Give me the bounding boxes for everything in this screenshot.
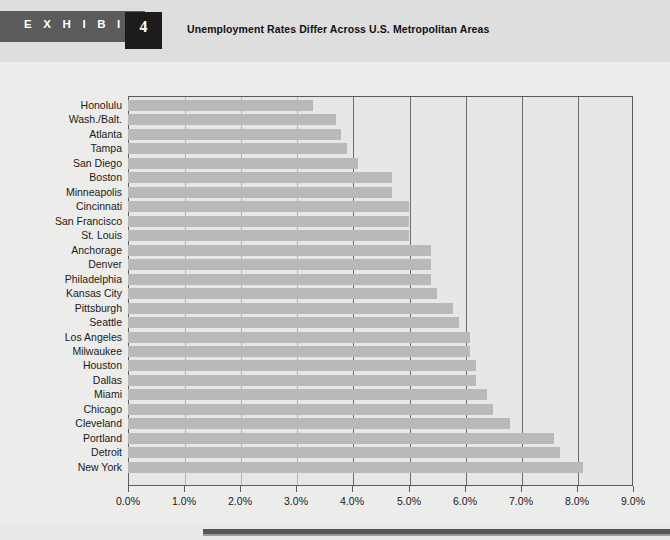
bar-new-york <box>128 462 583 473</box>
bar-miami <box>128 389 487 400</box>
footer-rule-shadow <box>203 534 670 536</box>
xtick-label-3.0pct: 3.0% <box>266 495 326 507</box>
xtick-mark-9 <box>633 486 634 492</box>
category-label-anchorage: Anchorage <box>0 244 122 256</box>
category-label-philadelphia: Philadelphia <box>0 273 122 285</box>
category-label-los-angeles: Los Angeles <box>0 331 122 343</box>
bar-minneapolis <box>128 187 392 198</box>
category-label-seattle: Seattle <box>0 316 122 328</box>
xtick-mark-8 <box>577 486 578 492</box>
category-label-denver: Denver <box>0 258 122 270</box>
bar-chicago <box>128 404 493 415</box>
category-label-wash-balt: Wash./Balt. <box>0 113 122 125</box>
category-label-chicago: Chicago <box>0 403 122 415</box>
category-label-milwaukee: Milwaukee <box>0 345 122 357</box>
bar-st-louis <box>128 230 409 241</box>
xtick-mark-2 <box>240 486 241 492</box>
xtick-mark-4 <box>352 486 353 492</box>
bar-cincinnati <box>128 201 409 212</box>
bar-detroit <box>128 447 560 458</box>
category-label-st-louis: St. Louis <box>0 229 122 241</box>
exhibit-number: 4 <box>125 18 162 36</box>
bar-pittsburgh <box>128 303 453 314</box>
value-axis-ticks: 0.0%1.0%2.0%3.0%4.0%5.0%6.0%7.0%8.0%9.0% <box>0 486 670 520</box>
category-label-san-diego: San Diego <box>0 157 122 169</box>
xtick-label-9.0pct: 9.0% <box>603 495 663 507</box>
xtick-mark-7 <box>521 486 522 492</box>
bar-denver <box>128 259 431 270</box>
category-label-boston: Boston <box>0 171 122 183</box>
bar-honolulu <box>128 100 313 111</box>
bar-anchorage <box>128 245 431 256</box>
category-label-cleveland: Cleveland <box>0 417 122 429</box>
category-label-miami: Miami <box>0 388 122 400</box>
xtick-label-8.0pct: 8.0% <box>547 495 607 507</box>
category-label-san-francisco: San Francisco <box>0 215 122 227</box>
category-label-detroit: Detroit <box>0 446 122 458</box>
bar-houston <box>128 360 476 371</box>
bar-san-diego <box>128 158 358 169</box>
category-label-cincinnati: Cincinnati <box>0 200 122 212</box>
xtick-mark-6 <box>465 486 466 492</box>
category-label-honolulu: Honolulu <box>0 99 122 111</box>
xtick-label-6.0pct: 6.0% <box>435 495 495 507</box>
category-label-new-york: New York <box>0 461 122 473</box>
bar-kansas-city <box>128 288 437 299</box>
xtick-mark-3 <box>296 486 297 492</box>
bar-seattle <box>128 317 459 328</box>
header-band: E X H I B I T 4 Unemployment Rates Diffe… <box>0 0 670 62</box>
category-label-atlanta: Atlanta <box>0 128 122 140</box>
bar-dallas <box>128 375 476 386</box>
xtick-label-1.0pct: 1.0% <box>154 495 214 507</box>
bar-boston <box>128 172 392 183</box>
category-label-kansas-city: Kansas City <box>0 287 122 299</box>
xtick-label-7.0pct: 7.0% <box>491 495 551 507</box>
bar-san-francisco <box>128 216 409 227</box>
xtick-label-0.0pct: 0.0% <box>98 495 158 507</box>
xtick-mark-1 <box>184 486 185 492</box>
category-label-minneapolis: Minneapolis <box>0 186 122 198</box>
category-label-portland: Portland <box>0 432 122 444</box>
bar-portland <box>128 433 554 444</box>
xtick-label-4.0pct: 4.0% <box>322 495 382 507</box>
bars-layer <box>128 96 633 486</box>
bar-cleveland <box>128 418 510 429</box>
category-label-houston: Houston <box>0 359 122 371</box>
bar-atlanta <box>128 129 341 140</box>
category-label-dallas: Dallas <box>0 374 122 386</box>
category-label-pittsburgh: Pittsburgh <box>0 302 122 314</box>
category-label-tampa: Tampa <box>0 142 122 154</box>
xtick-mark-0 <box>128 486 129 492</box>
bar-wash-balt <box>128 114 336 125</box>
bar-milwaukee <box>128 346 470 357</box>
xtick-mark-5 <box>409 486 410 492</box>
exhibit-page: E X H I B I T 4 Unemployment Rates Diffe… <box>0 0 670 540</box>
bar-philadelphia <box>128 274 431 285</box>
bar-tampa <box>128 143 347 154</box>
chart-title: Unemployment Rates Differ Across U.S. Me… <box>187 23 489 35</box>
xtick-label-2.0pct: 2.0% <box>210 495 270 507</box>
bar-los-angeles <box>128 332 470 343</box>
xtick-label-5.0pct: 5.0% <box>379 495 439 507</box>
category-axis-labels: HonoluluWash./Balt.AtlantaTampaSan Diego… <box>0 96 122 486</box>
